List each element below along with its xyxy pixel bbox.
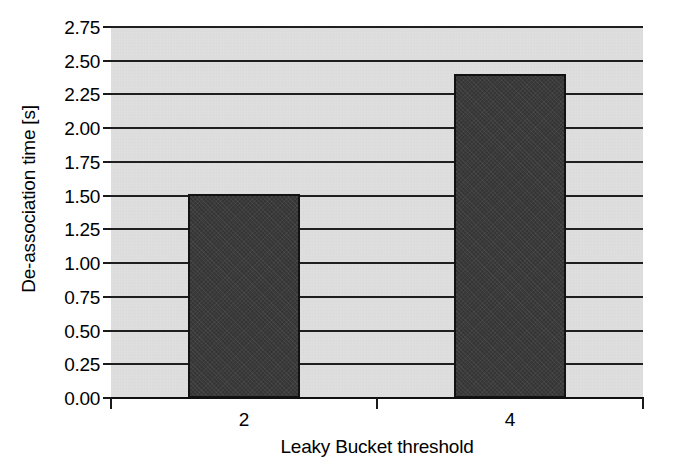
x-axis-tick-mark <box>376 398 378 409</box>
y-axis-tick-label: 1.50 <box>44 186 100 205</box>
y-axis-tick-label: 2.25 <box>44 85 100 104</box>
plot-area <box>111 27 643 398</box>
y-axis-tick-label: 1.75 <box>44 152 100 171</box>
y-axis-tick-label: 2.00 <box>44 119 100 138</box>
y-axis-tick-label: 0.00 <box>44 389 100 408</box>
y-axis-tick-labels: 0.000.250.500.751.001.251.501.752.002.25… <box>44 27 100 398</box>
gridline <box>111 60 643 62</box>
y-axis-tick-label: 1.25 <box>44 220 100 239</box>
y-axis-tick-label: 0.50 <box>44 321 100 340</box>
bar <box>454 74 566 398</box>
x-axis-tick-mark <box>110 398 112 409</box>
y-axis-title: De-association time [s] <box>12 0 46 398</box>
y-axis-tick-label: 1.00 <box>44 254 100 273</box>
gridline <box>111 26 643 28</box>
x-axis-title: Leaky Bucket threshold <box>111 436 643 458</box>
bar-chart: De-association time [s] 0.000.250.500.75… <box>0 0 675 465</box>
y-axis-tick-label: 0.75 <box>44 287 100 306</box>
y-axis-tick-label: 0.25 <box>44 355 100 374</box>
x-axis-tick-label: 4 <box>505 410 516 429</box>
x-axis-tick-mark <box>642 398 644 409</box>
y-axis-tick-label: 2.50 <box>44 51 100 70</box>
bar <box>188 194 300 398</box>
x-axis-tick-label: 2 <box>239 410 250 429</box>
y-axis-tick-label: 2.75 <box>44 18 100 37</box>
